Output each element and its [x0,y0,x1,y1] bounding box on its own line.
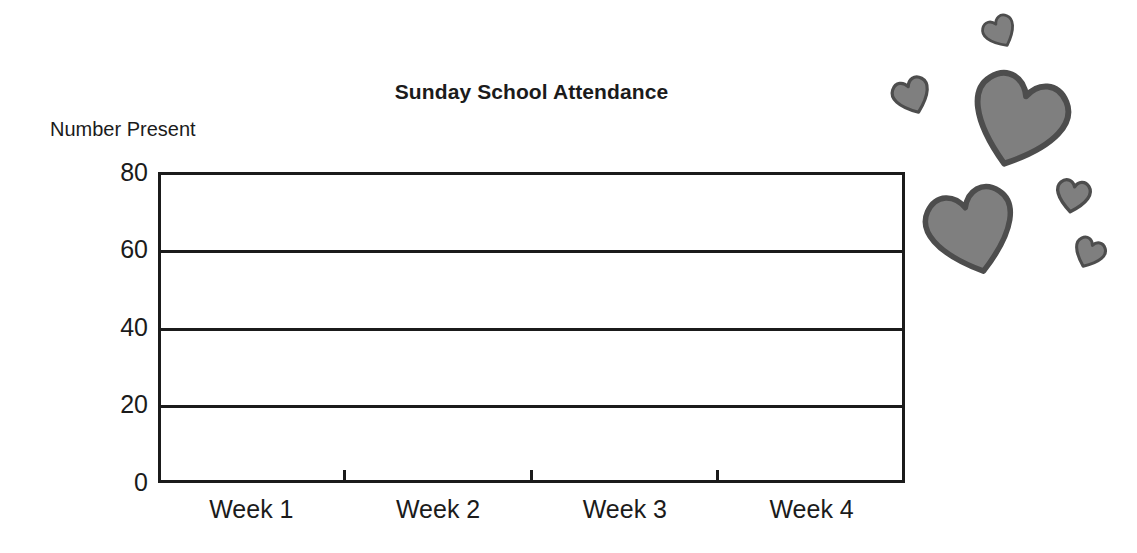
chart-title: Sunday School Attendance [158,80,905,104]
x-category-label-week-1: Week 1 [158,494,345,524]
sunday-school-attendance-chart: Sunday School Attendance Number Present … [0,0,1137,553]
heart-icon [973,5,1027,59]
plot-area [158,172,905,483]
y-tick-label-80: 80 [88,160,148,185]
x-category-label-week-3: Week 3 [532,494,719,524]
x-tick-2 [530,470,533,483]
x-category-label-week-4: Week 4 [718,494,905,524]
y-tick-label-40: 40 [88,315,148,340]
gridline-20 [161,405,902,408]
x-category-label-week-2: Week 2 [345,494,532,524]
heart-icon [904,163,1040,299]
y-tick-label-20: 20 [88,392,148,417]
heart-icon [1049,172,1098,221]
x-axis-ticks [158,470,905,484]
y-axis-tick-labels: 80 60 40 20 0 [80,172,148,483]
x-axis-category-labels: Week 1 Week 2 Week 3 Week 4 [158,494,905,530]
y-tick-label-60: 60 [88,237,148,262]
y-tick-label-0: 0 [88,470,148,495]
heart-icon [1064,228,1114,278]
gridline-60 [161,250,902,253]
y-axis-title: Number Present [50,118,196,141]
x-tick-3 [716,470,719,483]
heart-icon [944,47,1093,196]
x-tick-1 [343,470,346,483]
gridline-40 [161,328,902,331]
